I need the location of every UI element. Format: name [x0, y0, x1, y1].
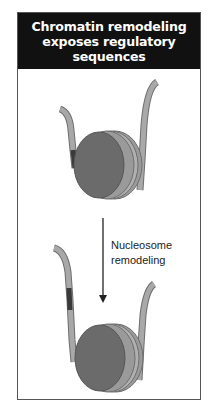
down-arrow-icon [99, 218, 107, 303]
nucleosome-before [60, 82, 157, 199]
chromatin-diagram [0, 0, 216, 416]
arrow-label-line-1: Nucleosome [111, 238, 172, 252]
arrow-label-line-2: remodeling [111, 253, 165, 267]
nucleosome-after [54, 248, 154, 392]
